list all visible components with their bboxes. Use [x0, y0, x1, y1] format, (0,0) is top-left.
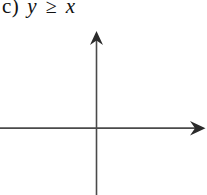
coordinate-plane: [0, 0, 207, 195]
figure-canvas: c)y≥x: [0, 0, 207, 195]
